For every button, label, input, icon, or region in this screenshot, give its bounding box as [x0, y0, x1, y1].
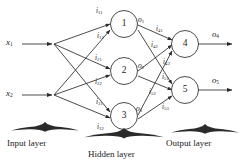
hidden-node-2-label: 2 [118, 66, 130, 76]
edge-label-i42: i42 [151, 42, 158, 49]
input-layer-brace [11, 122, 79, 132]
hidden-node-3-label: 3 [118, 111, 130, 121]
output-label-o5: o5 [212, 76, 219, 85]
output-label-o4: o4 [212, 30, 219, 39]
caption-input-layer: Input layer [7, 139, 46, 148]
hidden-node-1-label: 1 [118, 19, 130, 29]
caption-hidden-layer: Hidden layer [88, 150, 135, 159]
hidden-layer-brace [84, 128, 164, 139]
input-label-x2: x2 [6, 89, 13, 98]
edge-label-i53: i53 [162, 104, 169, 111]
edge-label-i32: i32 [97, 124, 104, 131]
output-node-4-label: 4 [179, 39, 191, 49]
neural-network-diagram: x1 x2 1 2 3 4 5 i11 i12 i21 i22 i31 i32 … [0, 0, 246, 167]
edge-label-o3: o3 [136, 105, 142, 114]
edge-label-i21: i21 [95, 55, 102, 62]
caption-output-layer: Output layer [166, 139, 211, 148]
edge-label-i12: i12 [97, 33, 104, 40]
edge-label-i43: i43 [163, 59, 170, 66]
edge-label-i51: i51 [162, 74, 169, 81]
edge-label-i11: i11 [96, 8, 103, 15]
edge-label-i41: i41 [156, 26, 163, 33]
edge-label-i52: i52 [149, 89, 156, 96]
edge-label-o2: o2 [138, 62, 144, 71]
edge-label-i31: i31 [96, 99, 103, 106]
edge-label-o1: o1 [138, 16, 144, 25]
output-layer-brace [171, 124, 239, 134]
edge-label-i22: i22 [95, 79, 102, 86]
output-node-5-label: 5 [179, 85, 191, 95]
input-label-x1: x1 [6, 38, 13, 47]
